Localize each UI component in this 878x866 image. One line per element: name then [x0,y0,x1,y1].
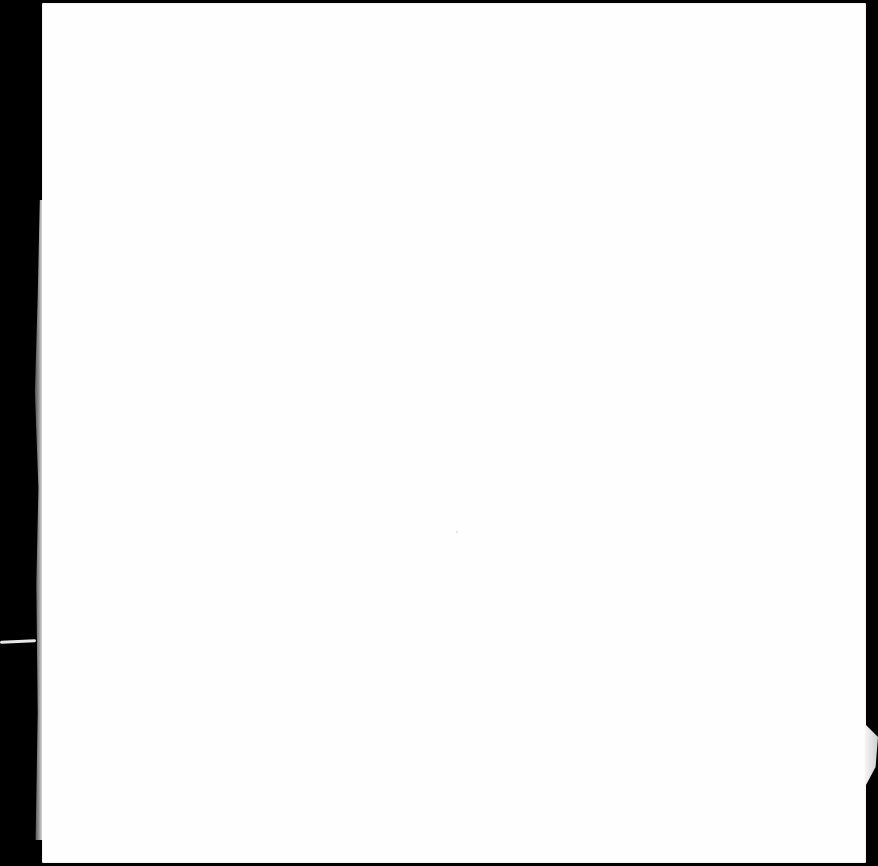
paper-strand [0,639,36,644]
blank-page [42,3,866,863]
dust-speck [456,531,458,533]
torn-left-edge [30,200,44,840]
curled-corner [866,725,878,785]
